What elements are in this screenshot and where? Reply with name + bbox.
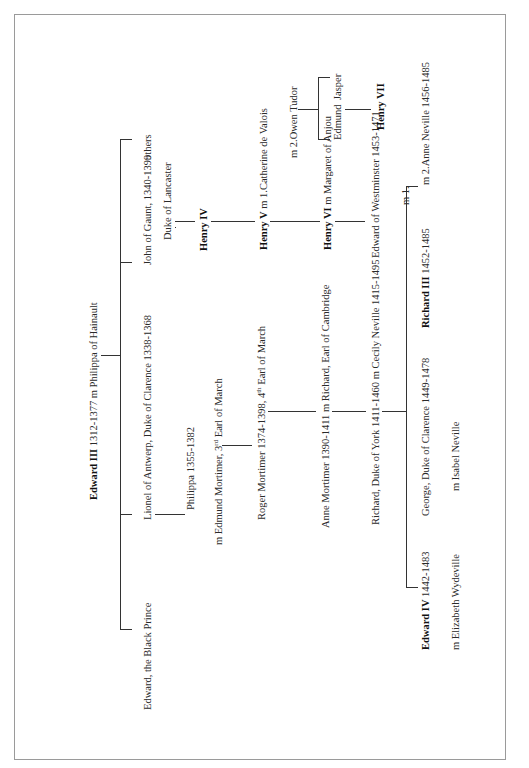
edward-of-westminster: Edward of Westminster 1453-1471 [370,111,382,258]
george: George, Duke of Clarence 1449-1478 [420,358,432,516]
philippa: Philippa 1355-1382 [185,427,197,510]
edward-iv: Edward IV 1442-1483 [420,551,432,650]
lionel: Lionel of Antwerp, Duke of Clarence 1338… [142,315,154,520]
henry-iv: Henry IV [198,208,210,251]
henry-iv-name: Henry IV [198,208,209,251]
richard-to-children [382,411,406,412]
henry-v-spouse: m 1.Catherine de Valois [258,108,269,211]
anne-to-richard [332,411,366,412]
jasper: Jasper [332,74,344,100]
root-dates: 1312-1377 [88,401,99,447]
edmund-mortimer-ordinal: rd [212,440,220,446]
edward-iv-spouse: m Elizabeth Wydeville [450,554,462,650]
roger-mortimer-title: Earl of March [256,326,267,388]
spacer-2 [175,227,176,228]
richard-iii: Richard III 1452-1485 [420,228,432,328]
edmund-mortimer-text: m Edmund Mortimer, 3 [213,446,224,545]
henry-vi-name: Henry VI [322,207,333,250]
richard-iii-name: Richard III [420,276,431,328]
richard-iii-spouse: m 2.Anne Neville 1456-1485 [420,62,432,185]
children-bar [120,140,121,630]
george-spouse: m Isabel Neville [450,422,462,491]
john-of-gaunt: John of Gaunt, 1340-1399 [142,155,154,265]
roger-mortimer: Roger Mortimer 1374-1398, 4th Earl of Ma… [256,326,268,520]
henry-iv-to-henry-v [211,221,255,222]
henry-vii: Henry VII [375,83,387,130]
philippa-to-roger [222,445,252,446]
richard-iii-dates: 1452-1485 [420,228,431,276]
edward-iv-name: Edward IV [420,600,431,650]
edmund: Edmund [332,104,344,140]
tick-others [120,139,132,140]
edmund-mortimer: m Edmund Mortimer, 3rd Earl of March [213,378,225,545]
john-title: Duke of Lancaster [162,162,174,240]
catherine-second-marriage: m 2.Owen Tudor [288,87,300,158]
henry-v-to-henry-vi [270,221,320,222]
henry-vii-name: Henry VII [375,83,386,130]
edmund-mortimer-title: Earl of March [213,378,224,440]
roger-mortimer-ordinal: th [255,387,263,392]
tick-edward-iv [406,587,418,588]
owen-tudor-connector [298,109,318,110]
edward-westminster-marriage: m 1. [400,186,412,205]
root-spouse: m Philippa of Hainault [88,302,99,398]
tudor-children-bar [318,78,319,140]
henry-vi-to-edward [335,221,365,222]
anne-mortimer: Anne Mortimer 1390-1411 m Richard, Earl … [320,285,332,528]
tick-john [120,262,132,263]
tick-jasper [318,77,330,78]
others: others [142,134,154,160]
tick-edmund [318,139,330,140]
richard-york: Richard, Duke of York 1411-1460 m Cecily… [370,259,382,525]
root-connector [101,355,120,356]
edward-iv-dates: 1442-1483 [420,551,431,599]
root-name: Edward III [88,449,99,500]
york-children-bar [406,187,407,588]
black-prince: Edward, the Black Prince [142,603,154,710]
tick-black-prince [120,629,132,630]
root-edward-iii: Edward III 1312-1377 m Philippa of Haina… [88,302,100,500]
henry-v-name: Henry V [258,211,269,250]
family-tree-page: Edward III 1312-1377 m Philippa of Haina… [0,0,529,768]
roger-to-anne [268,411,316,412]
john-to-henry-iv [175,221,195,222]
tick-lionel [120,514,132,515]
edmund-to-henry-vii [345,109,371,110]
henry-v: Henry V m 1.Catherine de Valois [258,108,270,250]
roger-mortimer-text: Roger Mortimer 1374-1398, 4 [256,393,267,520]
lionel-to-philippa [155,514,185,515]
